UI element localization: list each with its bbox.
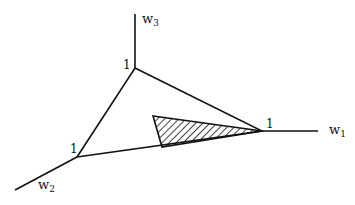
w2-sub: 2 <box>49 184 55 194</box>
w1-base: w <box>329 122 340 137</box>
w2-vertex-label: 1 <box>70 143 78 155</box>
w1-axis-label: w1 <box>329 123 346 136</box>
w2-axis-label: w2 <box>38 178 55 191</box>
w1-sub: 1 <box>340 129 346 139</box>
w1-vertex-label: 1 <box>266 118 274 130</box>
hatched-region <box>153 116 262 147</box>
w3-axis-label: w3 <box>142 12 159 25</box>
simplex-diagram <box>0 0 355 205</box>
w2-base: w <box>38 177 49 192</box>
w3-sub: 3 <box>153 18 159 28</box>
w3-base: w <box>142 11 153 26</box>
w3-vertex-label: 1 <box>123 59 131 71</box>
